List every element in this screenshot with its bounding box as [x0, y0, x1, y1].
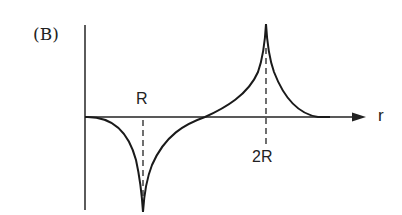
x-axis-label: r: [378, 106, 384, 126]
plot-area: [0, 0, 402, 215]
figure-canvas: (B) R 2R r: [0, 0, 402, 215]
x-axis-arrow-icon: [352, 113, 366, 122]
panel-label: (B): [33, 24, 59, 44]
curve-line: [85, 24, 330, 212]
tick-label-2R: 2R: [252, 148, 272, 166]
tick-label-R: R: [136, 90, 148, 108]
